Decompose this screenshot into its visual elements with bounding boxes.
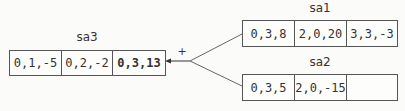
array-cell-empty (347, 75, 397, 100)
array-cell: 2,0,-15 (295, 75, 347, 100)
array-cell: 3,3,-3 (347, 21, 397, 46)
array-cell: 0,3,5 (243, 75, 295, 100)
array-label-sa3: sa3 (57, 30, 117, 44)
array-label-sa1: sa1 (290, 1, 350, 15)
array-cell-highlighted: 0,3,13 (113, 51, 165, 75)
array-sa2: 0,3,5 2,0,-15 (242, 74, 398, 101)
operator-plus: + (176, 45, 188, 58)
array-cell: 0,3,8 (243, 21, 295, 46)
array-sa3: 0,1,-5 0,2,-2 0,3,13 (9, 50, 166, 76)
array-sa1: 0,3,8 2,0,20 3,3,-3 (242, 20, 398, 47)
array-cell: 2,0,20 (295, 21, 347, 46)
array-cell: 0,1,-5 (10, 51, 62, 75)
array-label-sa2: sa2 (290, 55, 350, 69)
array-cell: 0,2,-2 (62, 51, 113, 75)
